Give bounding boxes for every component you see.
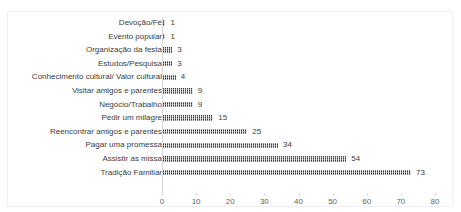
category-label: Pagar uma promessa <box>86 138 162 152</box>
x-tick-label: 80 <box>425 197 445 206</box>
x-tick-mark <box>162 193 163 196</box>
bar-value-label: 73 <box>416 166 425 180</box>
bar <box>162 75 176 80</box>
bar-row: Evento popular1 <box>8 30 454 44</box>
bar <box>162 115 213 120</box>
x-tick-label: 10 <box>186 197 206 206</box>
category-label: Estudos/Pesquisa <box>98 57 162 71</box>
category-label: Tradição Familiar <box>101 166 163 180</box>
bar <box>162 20 165 25</box>
x-tick-mark <box>333 193 334 196</box>
bar-value-label: 1 <box>170 16 174 30</box>
category-label: Evento popular <box>108 30 162 44</box>
bar <box>162 47 172 52</box>
bar-row: Reencontrar amigos e parentes25 <box>8 125 454 139</box>
x-tick-mark <box>196 193 197 196</box>
bar <box>162 156 346 161</box>
bar <box>162 102 193 107</box>
bar-value-label: 54 <box>351 152 360 166</box>
chart-frame: Devoção/Fé1Evento popular1Organização da… <box>7 11 453 207</box>
bar-value-label: 1 <box>170 30 174 44</box>
x-tick-mark <box>367 193 368 196</box>
category-label: Pedir um milagre <box>102 111 162 125</box>
x-tick-mark <box>401 193 402 196</box>
clipped-title-remnant <box>0 0 461 9</box>
bar-value-label: 25 <box>252 125 261 139</box>
x-tick-label: 0 <box>152 197 172 206</box>
category-label: Negócio/Trabalho <box>99 98 162 112</box>
bar <box>162 143 278 148</box>
bar-value-label: 3 <box>177 43 181 57</box>
x-tick-mark <box>230 193 231 196</box>
category-label: Assistir as missa <box>102 152 162 166</box>
x-tick-label: 40 <box>289 197 309 206</box>
bar-value-label: 4 <box>181 70 185 84</box>
bar-value-label: 15 <box>218 111 227 125</box>
category-label: Organização da festa <box>86 43 162 57</box>
bar-row: Devoção/Fé1 <box>8 16 454 30</box>
bar <box>162 34 165 39</box>
bar-value-label: 9 <box>198 98 202 112</box>
category-label: Reencontrar amigos e parentes <box>50 125 162 139</box>
x-tick-label: 20 <box>220 197 240 206</box>
x-tick-label: 70 <box>391 197 411 206</box>
bar-row: Assistir as missa54 <box>8 152 454 166</box>
bar <box>162 129 247 134</box>
bar-row: Negócio/Trabalho9 <box>8 98 454 112</box>
bar-row: Pedir um milagre15 <box>8 111 454 125</box>
x-tick-mark <box>299 193 300 196</box>
bar <box>162 88 193 93</box>
x-tick-mark <box>264 193 265 196</box>
bar-row: Tradição Familiar73 <box>8 166 454 180</box>
x-tick-label: 50 <box>323 197 343 206</box>
bar-value-label: 34 <box>283 138 292 152</box>
bar-row: Visitar amigos e parentes9 <box>8 84 454 98</box>
x-tick-label: 60 <box>357 197 377 206</box>
category-label: Devoção/Fé <box>119 16 162 30</box>
bar-row: Estudos/Pesquisa3 <box>8 57 454 71</box>
bar <box>162 170 411 175</box>
bar <box>162 61 172 66</box>
x-tick-label: 30 <box>254 197 274 206</box>
bar-value-label: 9 <box>198 84 202 98</box>
bar-row: Conhecimento cultural/ Valor cultural4 <box>8 70 454 84</box>
category-label: Conhecimento cultural/ Valor cultural <box>32 70 162 84</box>
category-label: Visitar amigos e parentes <box>72 84 162 98</box>
x-tick-mark <box>435 193 436 196</box>
bar-chart-plot-area: Devoção/Fé1Evento popular1Organização da… <box>8 12 454 208</box>
bar-row: Pagar uma promessa34 <box>8 138 454 152</box>
bar-row: Organização da festa3 <box>8 43 454 57</box>
bar-value-label: 3 <box>177 57 181 71</box>
